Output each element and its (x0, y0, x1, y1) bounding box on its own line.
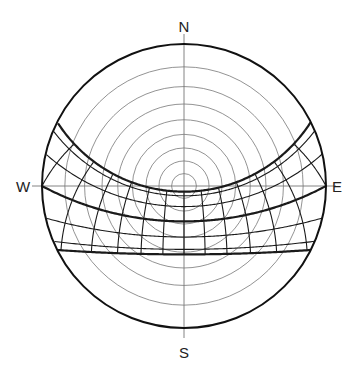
west-label: W (16, 179, 30, 194)
compass-axes (32, 34, 336, 338)
south-label: S (179, 345, 189, 360)
north-label: N (179, 19, 190, 34)
east-label: E (332, 179, 342, 194)
sun-path-diagram (0, 0, 360, 378)
